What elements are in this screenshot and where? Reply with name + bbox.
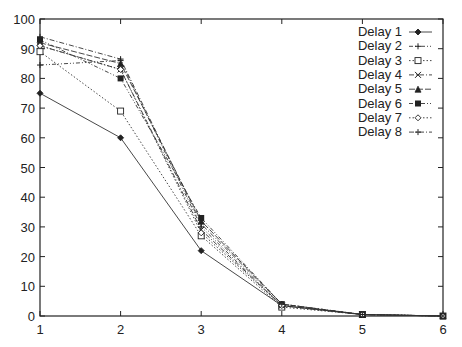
legend-label: Delay 5 bbox=[358, 81, 402, 96]
x-tick-label: 3 bbox=[198, 322, 205, 337]
legend-item-4: Delay 4 bbox=[358, 67, 432, 82]
data-point-marker bbox=[118, 108, 124, 114]
legend-label: Delay 3 bbox=[358, 53, 402, 68]
legend-marker bbox=[415, 58, 421, 64]
legend-marker bbox=[415, 115, 421, 121]
data-point-marker bbox=[37, 90, 43, 96]
x-tick-label: 6 bbox=[439, 322, 446, 337]
legend-item-2: Delay 2 bbox=[358, 38, 432, 53]
y-tick-label: 60 bbox=[21, 131, 35, 146]
y-tick-label: 100 bbox=[13, 12, 35, 27]
legend-item-6: Delay 6 bbox=[358, 96, 432, 111]
y-tick-label: 50 bbox=[21, 161, 35, 176]
legend-marker bbox=[415, 101, 421, 107]
y-tick-label: 90 bbox=[21, 42, 35, 57]
data-point-marker bbox=[198, 248, 204, 254]
data-point-marker bbox=[118, 75, 124, 81]
y-tick-label: 80 bbox=[21, 71, 35, 86]
legend-marker bbox=[415, 43, 421, 49]
legend-label: Delay 1 bbox=[358, 24, 402, 39]
legend-marker bbox=[415, 129, 421, 135]
y-tick-label: 10 bbox=[21, 279, 35, 294]
legend-marker bbox=[415, 29, 421, 35]
legend-item-7: Delay 7 bbox=[358, 110, 432, 125]
legend-label: Delay 2 bbox=[358, 38, 402, 53]
x-tick-label: 1 bbox=[36, 322, 43, 337]
line-chart: 0102030405060708090100 123456 Delay 1Del… bbox=[0, 0, 462, 347]
legend-label: Delay 7 bbox=[358, 110, 402, 125]
legend-item-1: Delay 1 bbox=[358, 24, 432, 39]
legend-label: Delay 4 bbox=[358, 67, 402, 82]
y-tick-label: 70 bbox=[21, 101, 35, 116]
legend-item-3: Delay 3 bbox=[358, 53, 432, 68]
data-point-marker bbox=[118, 56, 124, 62]
y-tick-label: 20 bbox=[21, 250, 35, 265]
legend-label: Delay 6 bbox=[358, 96, 402, 111]
x-tick-label: 2 bbox=[117, 322, 124, 337]
data-point-marker bbox=[37, 49, 43, 55]
data-point-marker bbox=[118, 135, 124, 141]
x-tick-label: 5 bbox=[359, 322, 366, 337]
legend-label: Delay 8 bbox=[358, 124, 402, 139]
data-point-marker bbox=[37, 62, 43, 68]
y-tick-label: 30 bbox=[21, 220, 35, 235]
x-tick-label: 4 bbox=[278, 322, 285, 337]
legend: Delay 1Delay 2Delay 3Delay 4Delay 5Delay… bbox=[358, 24, 432, 139]
y-tick-label: 40 bbox=[21, 190, 35, 205]
y-tick-label: 0 bbox=[28, 309, 35, 324]
legend-item-5: Delay 5 bbox=[358, 81, 432, 96]
legend-item-8: Delay 8 bbox=[358, 124, 432, 139]
